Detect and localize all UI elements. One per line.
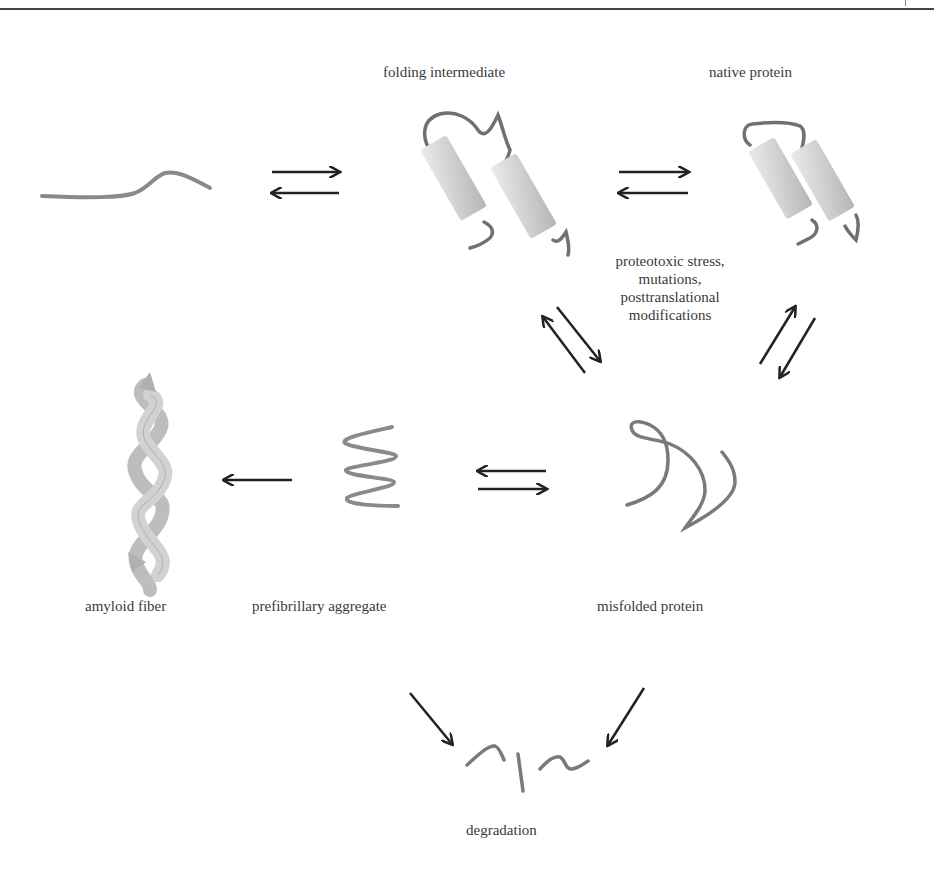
degradation-fragments-icon [467,746,588,791]
reversible-arrow-native-misfolded [760,307,815,377]
label-native-protein: native protein [709,63,792,81]
amyloid-fiber-icon [128,372,165,590]
label-misfolded-protein: misfolded protein [597,597,703,615]
label-amyloid-fiber: amyloid fiber [85,597,166,615]
label-folding-intermediate: folding intermediate [383,63,505,81]
reversible-arrow-intermediate-native [619,172,688,193]
label-stress-line-2: mutations, [590,270,750,288]
label-stress-line-4: modifications [590,306,750,324]
unfolded-chain-icon [42,172,210,197]
label-stress-line-3: posttranslational [590,288,750,306]
arrow-misfolded-to-degradation [608,688,644,745]
folding-intermediate-icon [420,113,569,255]
label-stress-causes: proteotoxic stress, mutations, posttrans… [590,252,750,324]
native-protein-icon [744,123,858,244]
reversible-arrow-prefibrillary-misfolded [478,471,546,489]
reversible-arrow-unfolded-intermediate [272,172,339,193]
diagram-canvas [0,0,934,869]
prefibrillary-aggregate-icon [344,427,398,506]
label-stress-line-1: proteotoxic stress, [590,252,750,270]
misfolded-protein-icon [627,422,735,528]
arrow-prefibrillary-to-degradation [410,693,452,744]
label-degradation: degradation [466,821,537,839]
label-prefibrillary-aggregate: prefibrillary aggregate [252,597,387,615]
